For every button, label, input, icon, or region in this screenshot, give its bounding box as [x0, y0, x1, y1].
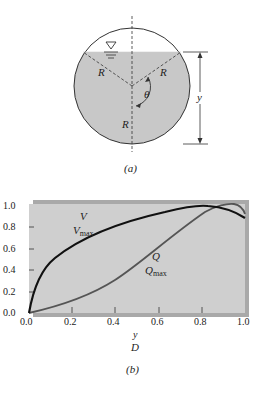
caption-b: (b)	[126, 363, 139, 376]
angle-label-theta: θ	[144, 88, 150, 100]
radius-label-left: R	[97, 66, 105, 78]
q-label-numerator: Q	[152, 250, 160, 262]
xtick-1: 0.2	[64, 316, 77, 327]
figure-canvas: R R R θ y (a) 0.0 0.2 0.4 0.6 0.8 1.0	[0, 0, 263, 394]
ytick-1: 0.2	[3, 286, 16, 297]
ytick-5: 1.0	[3, 200, 16, 211]
xtick-4: 0.8	[194, 316, 207, 327]
xlabel-denominator: D	[130, 341, 139, 353]
xtick-0: 0.0	[20, 316, 33, 327]
xtick-2: 0.4	[107, 316, 120, 327]
chart-b: 0.0 0.2 0.4 0.6 0.8 1.0 0.0 0.2 0.4 0.6 …	[3, 200, 250, 353]
plot-area	[29, 204, 245, 313]
xtick-3: 0.6	[151, 316, 164, 327]
ytick-0: 0.0	[3, 307, 16, 318]
arrow-down-icon	[198, 138, 203, 144]
pipe-cross-section: R R R θ	[74, 16, 190, 152]
radius-label-bottom: R	[121, 118, 129, 130]
xtick-5: 1.0	[237, 316, 250, 327]
caption-a: (a)	[124, 162, 137, 175]
arrow-up-icon	[198, 52, 203, 58]
ytick-2: 0.4	[3, 264, 16, 275]
ytick-4: 0.8	[3, 221, 16, 232]
xlabel-numerator: y	[132, 329, 138, 340]
ytick-3: 0.6	[3, 243, 16, 254]
radius-label-right: R	[159, 66, 167, 78]
depth-label-y: y	[196, 91, 202, 103]
